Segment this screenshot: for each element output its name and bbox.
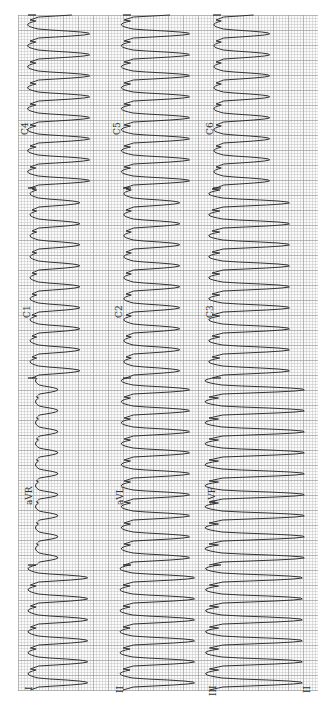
lead-label-C5: C5 (112, 122, 122, 135)
lead-label-C1: C1 (22, 305, 32, 318)
lead-label-C2: C2 (114, 305, 124, 318)
lead-label-aVF: aVF (207, 487, 217, 505)
lead-label-II: II (115, 686, 125, 693)
rhythm-label: II (302, 686, 312, 693)
lead-label-III: III (208, 685, 218, 696)
lead-label-C4: C4 (20, 122, 30, 135)
lead-label-aVR: aVR (24, 486, 34, 505)
lead-label-aVL: aVL (115, 487, 125, 505)
ecg-traces (0, 0, 335, 712)
lead-label-C6: C6 (205, 122, 215, 135)
lead-label-C3: C3 (205, 305, 215, 318)
lead-label-I: I (24, 686, 34, 690)
